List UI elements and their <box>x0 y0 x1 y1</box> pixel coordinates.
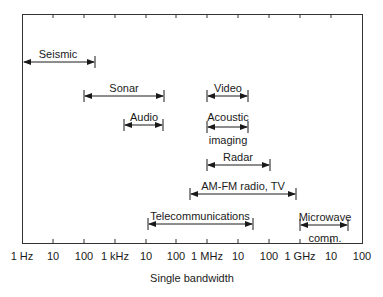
label-audio: Audio <box>130 111 158 123</box>
tick-label: 10 <box>140 250 152 262</box>
label-acoustic: Acoustic <box>207 111 249 123</box>
tick-label: 1 kHz <box>101 250 129 262</box>
label-seismic: Seismic <box>39 48 78 60</box>
label-microwave: Microwave <box>299 211 352 223</box>
label-video: Video <box>214 82 242 94</box>
tick-label: 100 <box>260 250 278 262</box>
label-imaging: imaging <box>209 134 248 146</box>
tick-label: 10 <box>232 250 244 262</box>
tick-label: 1 MHz <box>191 250 223 262</box>
tick-label: 10 <box>325 250 337 262</box>
tick-label: 1 GHz <box>284 250 315 262</box>
label-telecommunications: Telecommunications <box>150 210 250 222</box>
label-comm: comm. <box>309 232 342 244</box>
tick-label: 1 Hz <box>11 250 34 262</box>
tick-label: 100 <box>353 250 371 262</box>
label-radar: Radar <box>223 151 253 163</box>
label-sonar: Sonar <box>109 82 138 94</box>
tick-label: 100 <box>75 250 93 262</box>
tick-label: 10 <box>47 250 59 262</box>
label-amfm-radio-tv: AM-FM radio, TV <box>201 180 285 192</box>
tick-label: 100 <box>167 250 185 262</box>
axis-ticks <box>53 14 331 243</box>
x-axis-label: Single bandwidth <box>150 272 234 284</box>
